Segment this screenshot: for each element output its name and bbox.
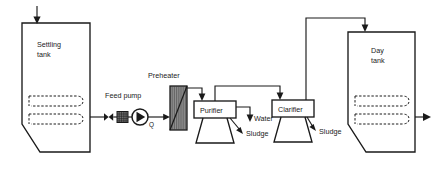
pipe-preheater-to-purifier — [187, 88, 205, 101]
day-tank-heating-coil — [355, 96, 409, 124]
suction-valve — [104, 113, 113, 121]
clarifier-stand — [274, 117, 312, 142]
pipe-clarifier-to-day-tank — [306, 18, 368, 100]
purifier-stand — [196, 118, 234, 143]
settling-tank — [22, 6, 90, 152]
day-tank-label-line2: tank — [371, 56, 385, 65]
preheater — [170, 86, 187, 130]
preheater-label: Preheater — [148, 71, 180, 80]
pipe-purifier-to-clarifier — [215, 86, 283, 101]
feed-pump — [132, 109, 148, 125]
settling-tank-label-line1: Settling — [37, 40, 61, 49]
purifier-sludge-label: Sludge — [246, 129, 268, 138]
clarifier-sludge-label: Sludge — [319, 127, 341, 136]
purifier-water-outlet — [236, 107, 253, 122]
clarifier-label: Clarifier — [278, 105, 303, 114]
purifier-water-label: Water — [254, 114, 274, 123]
purifier-label: Purifier — [200, 106, 223, 115]
pump-flow-symbol: Q — [149, 121, 154, 129]
day-tank-label-line1: Day — [371, 46, 384, 55]
pipe-pump-to-preheater — [148, 114, 170, 120]
settling-tank-heating-coil — [29, 96, 83, 124]
settling-tank-label-line2: tank — [37, 50, 51, 59]
process-flow-diagram: Settling tank Feed pump Q — [0, 0, 437, 177]
day-tank-outlet-arrow — [415, 113, 431, 121]
feed-pump-label: Feed pump — [105, 91, 141, 100]
purifier-sludge-outlet — [230, 118, 243, 134]
strainer-box — [117, 112, 128, 123]
diagram-canvas: Settling tank Feed pump Q — [0, 0, 437, 177]
settling-tank-inlet-arrow — [33, 6, 40, 24]
